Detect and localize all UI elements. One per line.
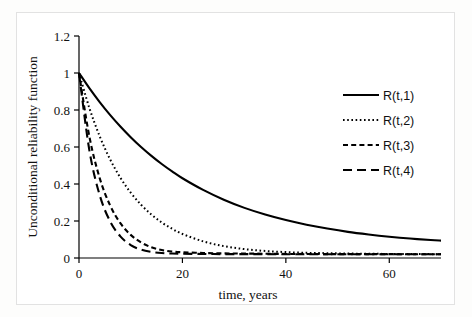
- chart-frame: 00.20.40.60.811.20204060time, yearsUncon…: [16, 12, 455, 305]
- x-tick-label: 0: [76, 266, 83, 281]
- y-tick-label: 0.2: [54, 214, 70, 229]
- legend-item-3[interactable]: R(t,3): [343, 139, 414, 153]
- legend-item-2[interactable]: R(t,2): [343, 114, 414, 128]
- legend-label-3: R(t,3): [383, 139, 414, 153]
- legend-item-1[interactable]: R(t,1): [343, 89, 414, 103]
- x-tick-label: 40: [279, 266, 292, 281]
- y-axis-title: Unconditional reliability function: [25, 56, 40, 238]
- figure-container: 00.20.40.60.811.20204060time, yearsUncon…: [0, 0, 472, 317]
- legend-label-1: R(t,1): [383, 89, 414, 103]
- x-tick-label: 20: [176, 266, 189, 281]
- legend-label-4: R(t,4): [383, 164, 414, 178]
- y-tick-label: 1.2: [54, 29, 70, 44]
- x-tick-label: 60: [383, 266, 396, 281]
- y-tick-label: 0.4: [54, 177, 71, 192]
- y-tick-label: 0.8: [54, 103, 70, 118]
- y-axis-title-group: Unconditional reliability function: [25, 56, 40, 238]
- y-tick-label: 0.6: [54, 140, 71, 155]
- y-tick-label: 0: [64, 251, 71, 266]
- reliability-chart: 00.20.40.60.811.20204060time, yearsUncon…: [17, 13, 454, 304]
- x-axis-title: time, years: [218, 287, 277, 302]
- legend-item-4[interactable]: R(t,4): [343, 164, 414, 178]
- y-tick-label: 1: [64, 66, 71, 81]
- legend-label-2: R(t,2): [383, 114, 414, 128]
